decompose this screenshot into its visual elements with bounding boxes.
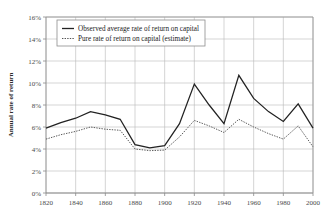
legend-label-observed: Observed average rate of return on capit… <box>78 25 199 33</box>
x-axis-tick-label: 2000 <box>306 199 321 207</box>
chart-canvas: 0%2%4%6%8%10%12%14%16% 18201840186018801… <box>0 0 334 222</box>
y-axis-tick-label: 12% <box>28 58 41 66</box>
x-axis-tick-label: 1880 <box>128 199 143 207</box>
chart-legend: Observed average rate of return on capit… <box>57 20 205 46</box>
y-axis-tick-label: 4% <box>32 146 42 154</box>
x-axis-tick-label: 1980 <box>276 199 291 207</box>
x-axis-tick-label: 1860 <box>98 199 113 207</box>
y-axis-tick-label: 0% <box>32 190 42 198</box>
x-axis-tick-labels: 1820184018601880190019201940196019802000 <box>39 199 321 207</box>
x-axis-tick-label: 1920 <box>187 199 202 207</box>
y-axis-tick-label: 16% <box>28 14 41 22</box>
y-axis-tick-label: 2% <box>32 168 42 176</box>
y-axis-tick-label: 6% <box>32 124 42 132</box>
y-axis-tick-labels: 0%2%4%6%8%10%12%14%16% <box>28 14 41 198</box>
y-axis-tick-label: 8% <box>32 102 42 110</box>
legend-label-pure: Pure rate of return on capital (estimate… <box>78 35 192 43</box>
y-axis-tick-label: 14% <box>28 36 41 44</box>
x-axis-tick-label: 1820 <box>39 199 54 207</box>
x-axis-tick-label: 1940 <box>217 199 232 207</box>
chart-figure: 0%2%4%6%8%10%12%14%16% 18201840186018801… <box>0 0 334 222</box>
x-axis-tick-label: 1840 <box>69 199 84 207</box>
x-axis-tick-label: 1900 <box>158 199 173 207</box>
y-axis-tick-label: 10% <box>28 80 41 88</box>
x-axis-tick-label: 1960 <box>247 199 262 207</box>
y-axis-title: Annual rate of return <box>7 73 15 138</box>
